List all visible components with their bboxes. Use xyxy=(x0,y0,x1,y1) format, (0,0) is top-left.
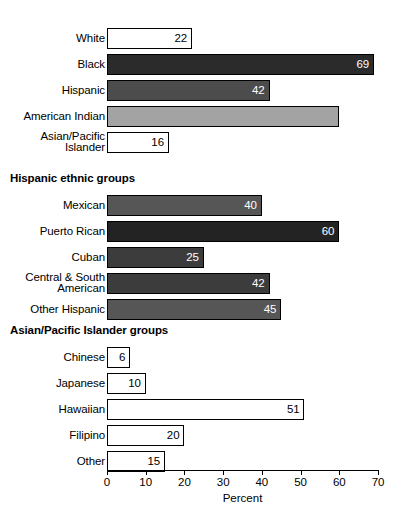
bar: 60 xyxy=(107,221,339,242)
bar-row: Asian/Pacific Islander16 xyxy=(0,132,398,153)
bar-value-label: 6 xyxy=(119,348,125,367)
category-label: Filipino xyxy=(0,425,105,446)
x-axis-tick xyxy=(301,470,302,475)
x-axis-tick-label: 60 xyxy=(333,476,346,488)
x-axis-tick-label: 0 xyxy=(104,476,110,488)
bar-row: Other Hispanic45 xyxy=(0,299,398,320)
category-label: Mexican xyxy=(0,195,105,216)
x-axis-tick-label: 20 xyxy=(178,476,191,488)
bar-value-label: 40 xyxy=(244,196,257,215)
x-axis-tick xyxy=(378,470,379,475)
x-axis-tick-label: 70 xyxy=(372,476,385,488)
x-axis-title: Percent xyxy=(223,492,263,504)
panel-heading-3: Asian/Pacific Islander groups xyxy=(10,324,168,336)
category-label: Hawaiian xyxy=(0,399,105,420)
bar-row: Puerto Rican60 xyxy=(0,221,398,242)
x-axis-tick-label: 30 xyxy=(217,476,230,488)
panel-heading-2: Hispanic ethnic groups xyxy=(10,172,135,184)
x-axis-line xyxy=(107,470,378,471)
category-label: Hispanic xyxy=(0,80,105,101)
bar-value-label: 60 xyxy=(322,222,335,241)
bar: 40 xyxy=(107,195,262,216)
bar: 25 xyxy=(107,247,204,268)
category-label: Japanese xyxy=(0,373,105,394)
bar-row: Hawaiian51 xyxy=(0,399,398,420)
bar: 51 xyxy=(107,399,304,420)
bar: 42 xyxy=(107,80,270,101)
bar-value-label: 22 xyxy=(175,29,188,48)
x-axis-tick xyxy=(339,470,340,475)
category-label: Cuban xyxy=(0,247,105,268)
x-axis-tick xyxy=(107,470,108,475)
bar-value-label: 69 xyxy=(357,55,370,74)
bar-row: Central & South American42 xyxy=(0,273,398,294)
x-axis-tick xyxy=(184,470,185,475)
bar-value-label: 25 xyxy=(186,248,199,267)
bar-value-label: 20 xyxy=(167,426,180,445)
bar-row: Japanese10 xyxy=(0,373,398,394)
category-label: Other Hispanic xyxy=(0,299,105,320)
bar-row: Mexican40 xyxy=(0,195,398,216)
x-axis-tick-label: 40 xyxy=(255,476,268,488)
bar-row: Cuban25 xyxy=(0,247,398,268)
bar-value-label: 42 xyxy=(252,81,265,100)
bar-row: Other15 xyxy=(0,451,398,472)
x-axis-tick xyxy=(223,470,224,475)
bar-row: Hispanic42 xyxy=(0,80,398,101)
bar-row: White22 xyxy=(0,28,398,49)
bar: 10 xyxy=(107,373,146,394)
bar-row: American Indian xyxy=(0,106,398,127)
bar: 69 xyxy=(107,54,374,75)
bar-value-label: 15 xyxy=(147,452,160,471)
bar: 6 xyxy=(107,347,130,368)
bar: 15 xyxy=(107,451,165,472)
bar: 45 xyxy=(107,299,281,320)
category-label: Chinese xyxy=(0,347,105,368)
bar-value-label: 10 xyxy=(128,374,141,393)
bar: 42 xyxy=(107,273,270,294)
category-label: Other xyxy=(0,451,105,472)
bar-row: Filipino20 xyxy=(0,425,398,446)
category-label: Asian/Pacific Islander xyxy=(0,131,105,152)
bar-value-label: 45 xyxy=(264,300,277,319)
x-axis-tick xyxy=(262,470,263,475)
bar-row: Chinese6 xyxy=(0,347,398,368)
bar xyxy=(107,106,339,127)
bar: 20 xyxy=(107,425,184,446)
x-axis-tick-label: 10 xyxy=(139,476,152,488)
chart-canvas: White22Black69Hispanic42American IndianA… xyxy=(0,0,398,506)
bar-row: Black69 xyxy=(0,54,398,75)
category-label: Black xyxy=(0,54,105,75)
category-label: Puerto Rican xyxy=(0,221,105,242)
bar: 22 xyxy=(107,28,192,49)
bar: 16 xyxy=(107,132,169,153)
category-label: Central & South American xyxy=(0,272,105,293)
bar-value-label: 16 xyxy=(151,133,164,152)
x-axis-tick-label: 50 xyxy=(294,476,307,488)
bar-value-label: 51 xyxy=(287,400,300,419)
category-label: American Indian xyxy=(0,106,105,127)
category-label: White xyxy=(0,28,105,49)
bar-value-label: 42 xyxy=(252,274,265,293)
x-axis-tick xyxy=(146,470,147,475)
